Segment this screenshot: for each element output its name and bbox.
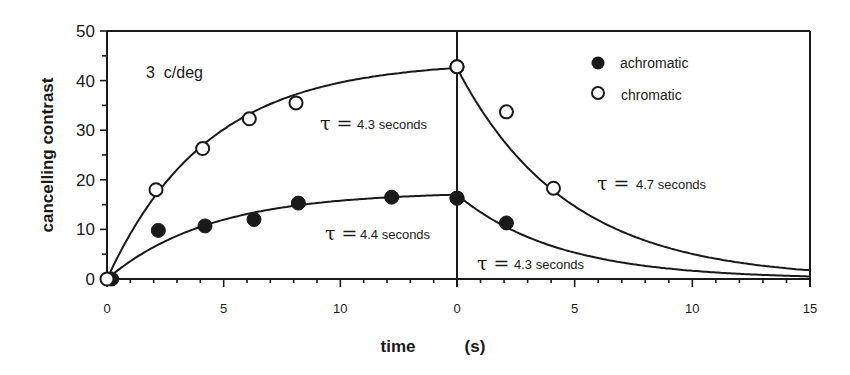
chart-canvas: 01020304050 0510051015 cancelling contra…: [0, 0, 850, 375]
tau-symbol: τ =: [320, 112, 352, 134]
legend-achromatic-label: achromatic: [620, 55, 688, 71]
tau-annotation-achromatic-adapt: τ = 4.4 seconds: [325, 222, 431, 244]
y-axis-title: cancelling contrast: [38, 77, 57, 232]
tau-annotation-achromatic-recovery: τ = 4.3 seconds: [477, 252, 585, 274]
tau-symbol: τ =: [477, 252, 509, 274]
x-tick-label: 5: [571, 301, 578, 316]
tau-value: 4.7 seconds: [636, 177, 707, 192]
tau-annotation-chromatic-adapt: τ = 4.3 seconds: [320, 112, 428, 134]
achromatic-data-point: [198, 219, 212, 233]
tau-annotation-chromatic-recovery: τ = 4.7 seconds: [597, 172, 707, 194]
chromatic-data-point: [243, 112, 256, 125]
y-tick-label: 0: [86, 270, 95, 289]
tau-symbol: τ =: [325, 222, 357, 244]
open-circle-icon: [592, 87, 604, 99]
achromatic-data-point: [247, 212, 261, 226]
tau-value: 4.3 seconds: [357, 117, 428, 132]
achromatic-data-point: [450, 191, 464, 205]
x-tick-label: 15: [803, 301, 817, 316]
y-tick-label: 20: [76, 171, 95, 190]
y-tick-label: 10: [76, 220, 95, 239]
achromatic-data-point: [291, 196, 305, 210]
x-axis-unit: (s): [465, 337, 486, 356]
chromatic-data-point: [547, 182, 560, 195]
legend: achromatic chromatic: [592, 55, 689, 103]
x-ticks: 0510051015: [103, 279, 817, 316]
tau-symbol: τ =: [597, 172, 629, 194]
chromatic-data-point: [196, 142, 209, 155]
y-tick-label: 50: [76, 22, 95, 41]
legend-chromatic-label: chromatic: [621, 87, 682, 103]
fit-curves: [107, 68, 810, 279]
achromatic-data-point: [151, 223, 165, 237]
x-tick-label: 10: [333, 301, 347, 316]
spatial-frequency-label: 3 c/deg: [146, 64, 203, 81]
chromatic-data-point: [101, 273, 114, 286]
chromatic-fit-curve: [107, 68, 457, 279]
y-ticks: 01020304050: [76, 22, 107, 289]
chromatic-data-point: [290, 96, 303, 109]
achromatic-data-point: [499, 216, 513, 230]
filled-circle-icon: [592, 57, 605, 70]
tau-value: 4.3 seconds: [514, 257, 585, 272]
x-tick-label: 0: [453, 301, 460, 316]
chromatic-data-point: [451, 60, 464, 73]
chromatic-data-point: [150, 183, 163, 196]
tau-value: 4.4 seconds: [360, 227, 431, 242]
y-tick-label: 40: [76, 72, 95, 91]
y-tick-label: 30: [76, 121, 95, 140]
x-axis-title: time: [381, 337, 416, 356]
x-tick-label: 5: [220, 301, 227, 316]
x-tick-label: 10: [685, 301, 699, 316]
x-tick-label: 0: [103, 301, 110, 316]
chromatic-data-point: [500, 105, 513, 118]
achromatic-data-point: [385, 190, 399, 204]
